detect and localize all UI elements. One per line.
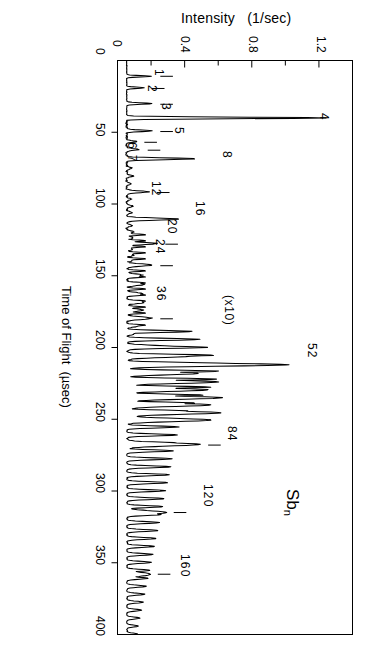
- time-tick-marks: [112, 132, 118, 563]
- plot-frame: [118, 61, 353, 635]
- mass-spectrum-figure: Intensity (1/sec) 0 0.4 0.8 1.2 0 50 100…: [0, 0, 371, 668]
- intensity-tick-marks: [118, 61, 353, 68]
- spectrum-trace: [126, 61, 326, 635]
- plot-area: [0, 0, 371, 668]
